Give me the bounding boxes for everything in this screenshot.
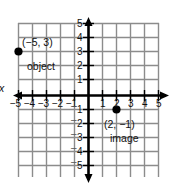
point-object-marker[interactable] <box>14 47 22 55</box>
y-tick-minus-neg-1: – <box>71 101 76 111</box>
x-tick-label-neg-2: −2 <box>52 99 63 109</box>
y-tick-label-2: 2 <box>77 61 82 71</box>
y-tick-label-3: 3 <box>77 47 82 57</box>
y-tick-minus-neg-5: – <box>71 157 76 167</box>
y-tick-label-neg-5: 5 <box>77 161 82 171</box>
x-tick-label-4: 4 <box>142 99 147 109</box>
x-tick-label-3: 3 <box>128 99 133 109</box>
graph-canvas <box>0 0 174 191</box>
x-tick-label-2: 2 <box>114 99 119 109</box>
object-name-label: object <box>27 61 55 72</box>
x-tick-label-1: 1 <box>100 99 105 109</box>
y-tick-minus-neg-3: – <box>71 129 76 139</box>
coordinate-plane-figure: −5 −4 −3 −2 −1 1 2 3 4 5 5 4 3 2 1 – 1 –… <box>0 0 174 191</box>
x-tick-label-neg-4: −4 <box>24 99 35 109</box>
y-tick-label-neg-4: 4 <box>77 147 82 157</box>
y-tick-minus-neg-4: – <box>71 143 76 153</box>
image-name-label: image <box>110 133 139 144</box>
x-tick-label-neg-3: −3 <box>38 99 49 109</box>
object-coordinate-label: (−5, 3) <box>22 37 53 48</box>
y-axis <box>85 17 93 183</box>
y-tick-label-neg-2: 2 <box>77 119 82 129</box>
x-axis-arrow-right <box>160 92 169 100</box>
y-tick-label-neg-1: 1 <box>77 105 82 115</box>
y-axis-arrow-down <box>85 174 93 183</box>
y-tick-label-5: 5 <box>77 19 82 29</box>
y-tick-minus-neg-2: – <box>71 115 76 125</box>
y-tick-label-4: 4 <box>77 33 82 43</box>
y-tick-label-neg-3: 3 <box>77 133 82 143</box>
image-coordinate-label: (2, −1) <box>104 119 135 130</box>
y-tick-label-1: 1 <box>77 75 82 85</box>
x-axis-label: x <box>0 83 4 94</box>
y-axis-arrow-up <box>85 17 93 26</box>
x-tick-label-neg-5: −5 <box>10 99 21 109</box>
x-tick-label-5: 5 <box>156 99 161 109</box>
